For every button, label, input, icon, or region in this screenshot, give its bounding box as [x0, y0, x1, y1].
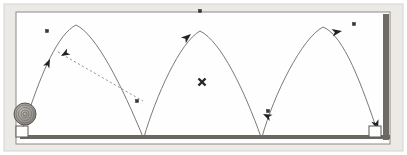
bouncing-ball-figure — [0, 0, 407, 155]
ground-line — [20, 135, 390, 139]
marker-arc1-peak-label — [46, 30, 49, 33]
trajectory-canvas — [0, 0, 407, 155]
start-box — [16, 126, 28, 137]
marker-bounce-1 — [136, 100, 139, 103]
marker-arc3-peak — [353, 23, 356, 26]
inner-canvas — [16, 12, 390, 144]
end-box — [369, 126, 381, 137]
ball — [14, 103, 36, 125]
marker-bounce-2 — [267, 110, 270, 113]
marker-top-center — [199, 10, 202, 13]
right-wall — [383, 14, 389, 140]
